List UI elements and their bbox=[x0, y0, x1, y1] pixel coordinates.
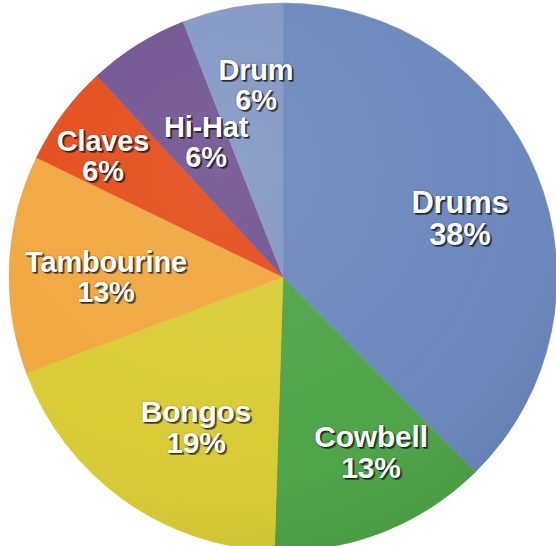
pie-chart-image: Drums 38% Cowbell 13% Bongos 19% Tambour… bbox=[0, 0, 556, 546]
pie-chart bbox=[0, 0, 556, 546]
pie-chart-svg bbox=[0, 0, 556, 546]
pie-sheen-overlay bbox=[9, 3, 556, 546]
